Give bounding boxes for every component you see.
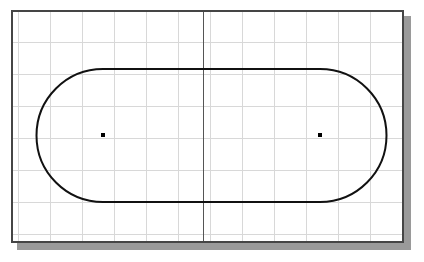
screenshot-root: • — [0, 0, 424, 262]
slot-outline-layer — [37, 69, 387, 202]
left-center-point — [101, 133, 105, 137]
grid-layer — [13, 12, 402, 241]
cad-vector-layer — [13, 12, 402, 241]
drawing-canvas[interactable] — [13, 12, 402, 241]
right-center-point — [318, 133, 322, 137]
clipped-glyph-icon: • — [49, 0, 63, 5]
slot-outline — [37, 69, 387, 202]
center-points-layer — [101, 133, 322, 137]
drawing-canvas-frame[interactable] — [11, 10, 404, 243]
